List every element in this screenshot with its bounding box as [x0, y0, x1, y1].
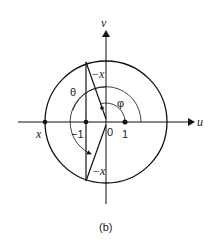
origin-label: 0 [107, 126, 113, 138]
complex-plane-diagram: v u −x −x θ φ x −1 0 1 (b) [0, 0, 218, 241]
point-arc-top [100, 106, 104, 110]
upper-segment-label: −x [91, 67, 105, 81]
one-label: 1 [122, 128, 128, 140]
phi-arc [73, 87, 141, 122]
u-axis-arrow-icon [188, 118, 195, 126]
theta-label: θ [70, 86, 76, 98]
v-axis-arrow-icon [102, 30, 110, 37]
lower-segment-label: −x [92, 164, 106, 178]
point-one [123, 120, 128, 125]
v-axis-label: v [101, 16, 107, 30]
neg-one-label: −1 [71, 128, 84, 140]
point-neg-one [84, 120, 89, 125]
figure-caption: (b) [99, 221, 112, 233]
u-axis-label: u [197, 115, 203, 129]
x-point-label: x [35, 127, 42, 141]
phi-label: φ [117, 97, 124, 109]
point-x [43, 120, 48, 125]
